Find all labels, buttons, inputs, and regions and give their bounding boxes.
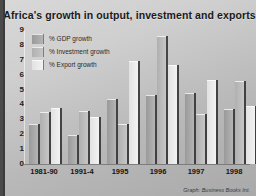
bar[interactable] <box>146 95 155 164</box>
bar[interactable] <box>68 135 77 164</box>
bar[interactable] <box>196 114 205 164</box>
bar-slot <box>107 99 116 164</box>
bar-groups <box>25 30 253 164</box>
bar-slot <box>68 135 77 164</box>
bar[interactable] <box>118 124 127 164</box>
x-axis-line <box>24 164 250 165</box>
bar-slot <box>168 65 177 164</box>
bar-slot <box>129 61 138 164</box>
x-tick-label: 1996 <box>139 167 177 176</box>
bar-group <box>142 30 181 164</box>
chart-credit: Graph: Business Books Int. <box>183 187 250 193</box>
bar-group <box>103 30 142 164</box>
bar-slot <box>235 81 244 164</box>
bar[interactable] <box>246 106 255 164</box>
plot-area <box>25 30 253 164</box>
x-tick-label: 1995 <box>101 167 139 176</box>
bar-slot <box>157 36 166 164</box>
bar-group <box>220 30 256 164</box>
bar[interactable] <box>224 109 233 164</box>
bar[interactable] <box>51 108 60 164</box>
bar-slot <box>90 117 99 164</box>
bar-slot <box>196 114 205 164</box>
x-tick-label: 1981-90 <box>25 167 63 176</box>
bar-group <box>64 30 103 164</box>
x-tick-label: 1991-4 <box>63 167 101 176</box>
bar-slot <box>51 108 60 164</box>
bar[interactable] <box>207 80 216 164</box>
chart-container: Africa's growth in output, investment an… <box>0 0 256 196</box>
bar-slot <box>207 80 216 164</box>
bar-slot <box>29 124 38 164</box>
bar-group <box>25 30 64 164</box>
y-axis-tick-labels: 0123456789 <box>9 30 24 164</box>
x-tick-label: 1997 <box>177 167 215 176</box>
bar-slot <box>185 93 194 164</box>
bar-slot <box>79 111 88 164</box>
bar[interactable] <box>168 65 177 164</box>
bar[interactable] <box>235 81 244 164</box>
bar-slot <box>118 124 127 164</box>
bar[interactable] <box>40 112 49 164</box>
bar-slot <box>246 106 255 164</box>
bar[interactable] <box>107 99 116 164</box>
bar-slot <box>224 109 233 164</box>
bar[interactable] <box>185 93 194 164</box>
bar[interactable] <box>157 36 166 164</box>
bar[interactable] <box>90 117 99 164</box>
bar[interactable] <box>129 61 138 164</box>
bar-slot <box>40 112 49 164</box>
x-axis-tick-labels: 1981-901991-41995199619971998 <box>25 167 253 176</box>
bar[interactable] <box>29 124 38 164</box>
x-tick-label: 1998 <box>215 167 253 176</box>
bar-slot <box>146 95 155 164</box>
bar[interactable] <box>79 111 88 164</box>
bar-group <box>181 30 220 164</box>
chart-title: Africa's growth in output, investment an… <box>3 9 256 21</box>
